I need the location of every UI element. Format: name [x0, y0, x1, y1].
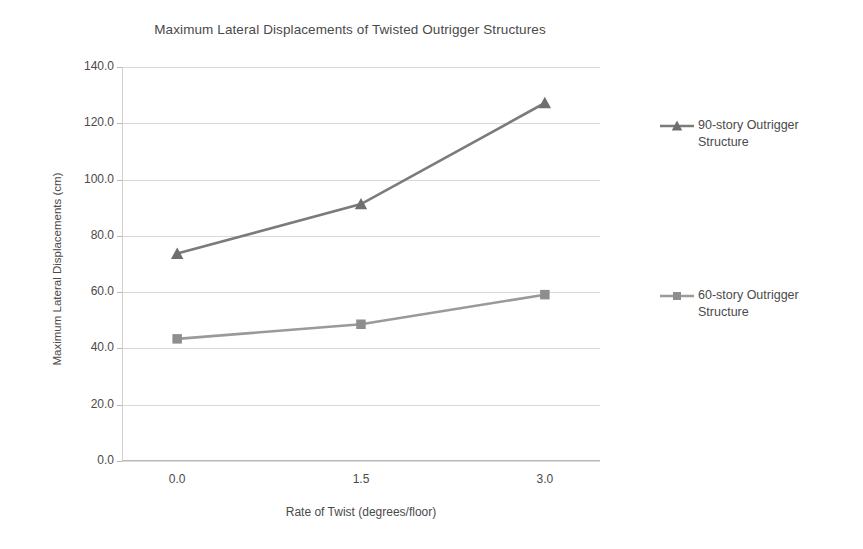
data-point-marker	[539, 97, 551, 109]
data-series-layer	[122, 67, 600, 461]
square-marker-icon	[660, 288, 694, 304]
data-point-marker	[355, 198, 367, 209]
legend: 90-story Outrigger Structure 60-story Ou…	[660, 67, 860, 461]
data-point-marker	[356, 320, 366, 330]
legend-label-60-story-line1: 60-story Outrigger	[698, 288, 799, 302]
legend-label-90-story: 90-story Outrigger Structure	[698, 117, 848, 151]
data-point-marker	[540, 290, 550, 300]
legend-label-60-story: 60-story Outrigger Structure	[698, 287, 848, 321]
y-axis-tick-label: 0.0	[58, 453, 114, 467]
y-axis-tick-label: 100.0	[58, 172, 114, 186]
plot-area	[122, 67, 600, 461]
triangle-marker-icon	[660, 118, 694, 134]
chart-container: Maximum Lateral Displacements of Twisted…	[0, 0, 863, 549]
y-axis-tick-label: 40.0	[58, 340, 114, 354]
legend-label-60-story-line2: Structure	[698, 305, 749, 319]
y-axis-tick-label: 60.0	[58, 284, 114, 298]
y-axis-tick-label: 20.0	[58, 397, 114, 411]
y-axis-tick	[117, 461, 122, 462]
x-axis-tick-label: 3.0	[510, 472, 580, 486]
series-line-1	[177, 295, 545, 339]
legend-label-90-story-line1: 90-story Outrigger	[698, 118, 799, 132]
gridline	[122, 461, 600, 462]
x-axis-tick-label: 1.5	[326, 472, 396, 486]
x-axis-title: Rate of Twist (degrees/floor)	[122, 505, 600, 519]
series-line-0	[177, 103, 545, 254]
y-axis-title: Maximum Lateral Displacements (cm)	[51, 109, 63, 429]
legend-label-90-story-line2: Structure	[698, 135, 749, 149]
chart-title: Maximum Lateral Displacements of Twisted…	[0, 22, 700, 37]
y-axis-tick-label: 120.0	[58, 115, 114, 129]
y-axis-tick-label: 140.0	[58, 59, 114, 73]
x-axis-tick-label: 0.0	[142, 472, 212, 486]
data-point-marker	[172, 334, 182, 344]
y-axis-tick-label: 80.0	[58, 228, 114, 242]
